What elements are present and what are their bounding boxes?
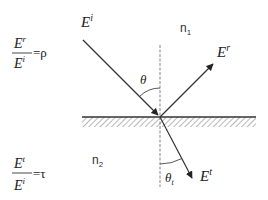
theta-label: θ bbox=[140, 72, 147, 87]
reflected-ray bbox=[160, 64, 213, 117]
reflection-equation: Er Ei =ρ bbox=[12, 34, 47, 71]
theta-arc bbox=[140, 88, 161, 97]
interface-hatch bbox=[82, 117, 256, 127]
svg-text:=τ: =τ bbox=[33, 166, 46, 181]
reflected-label: Er bbox=[216, 42, 230, 60]
reflection-transmission-diagram: Ei Er Et n1 n2 θ θt Er Ei =ρ Et Ei bbox=[0, 0, 268, 200]
transmitted-label: Et bbox=[199, 166, 212, 184]
svg-text:Er: Er bbox=[13, 34, 27, 51]
svg-text:Et: Et bbox=[13, 154, 26, 171]
medium1-label: n1 bbox=[180, 21, 192, 37]
medium2-label: n2 bbox=[92, 153, 104, 169]
incident-label: Ei bbox=[80, 12, 93, 30]
svg-text:Ei: Ei bbox=[13, 54, 26, 71]
theta-t-label: θt bbox=[165, 170, 174, 187]
theta-t-arc bbox=[160, 159, 182, 165]
transmission-equation: Et Ei =τ bbox=[12, 154, 46, 193]
svg-text:Ei: Ei bbox=[13, 176, 26, 193]
svg-text:=ρ: =ρ bbox=[33, 45, 47, 60]
incident-ray bbox=[83, 40, 158, 115]
